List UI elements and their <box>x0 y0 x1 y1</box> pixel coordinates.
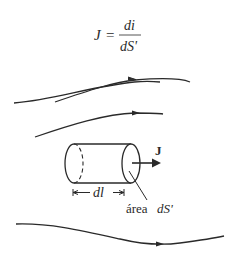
formula-denominator: dS' <box>120 39 138 54</box>
current-density-diagram: J = di dS' J dl área dS' <box>0 0 240 266</box>
formula-numerator: di <box>124 18 135 33</box>
cylinder-back-hidden-edge <box>74 144 83 183</box>
j-vector-arrow-icon <box>152 159 161 168</box>
formula-lhs: J <box>94 27 102 43</box>
formula-equals: = <box>106 27 114 43</box>
streamline-2-arrow-icon <box>132 111 140 116</box>
streamline-1-arrow-icon <box>128 77 136 80</box>
cylinder-back-face <box>65 144 74 183</box>
streamline-3 <box>16 224 224 244</box>
j-vector-label: J <box>155 143 162 158</box>
area-symbol-label: dS' <box>157 201 173 216</box>
formula: J = di dS' <box>94 18 141 54</box>
dl-dimension: dl <box>73 185 124 200</box>
streamline-1 <box>55 79 190 102</box>
area-word-label: área <box>126 201 148 216</box>
dl-label: dl <box>93 185 104 200</box>
cylinder <box>65 144 140 183</box>
streamline-0 <box>14 81 160 103</box>
streamline-3-arrow-icon <box>156 242 164 247</box>
streamline-2 <box>35 113 163 137</box>
